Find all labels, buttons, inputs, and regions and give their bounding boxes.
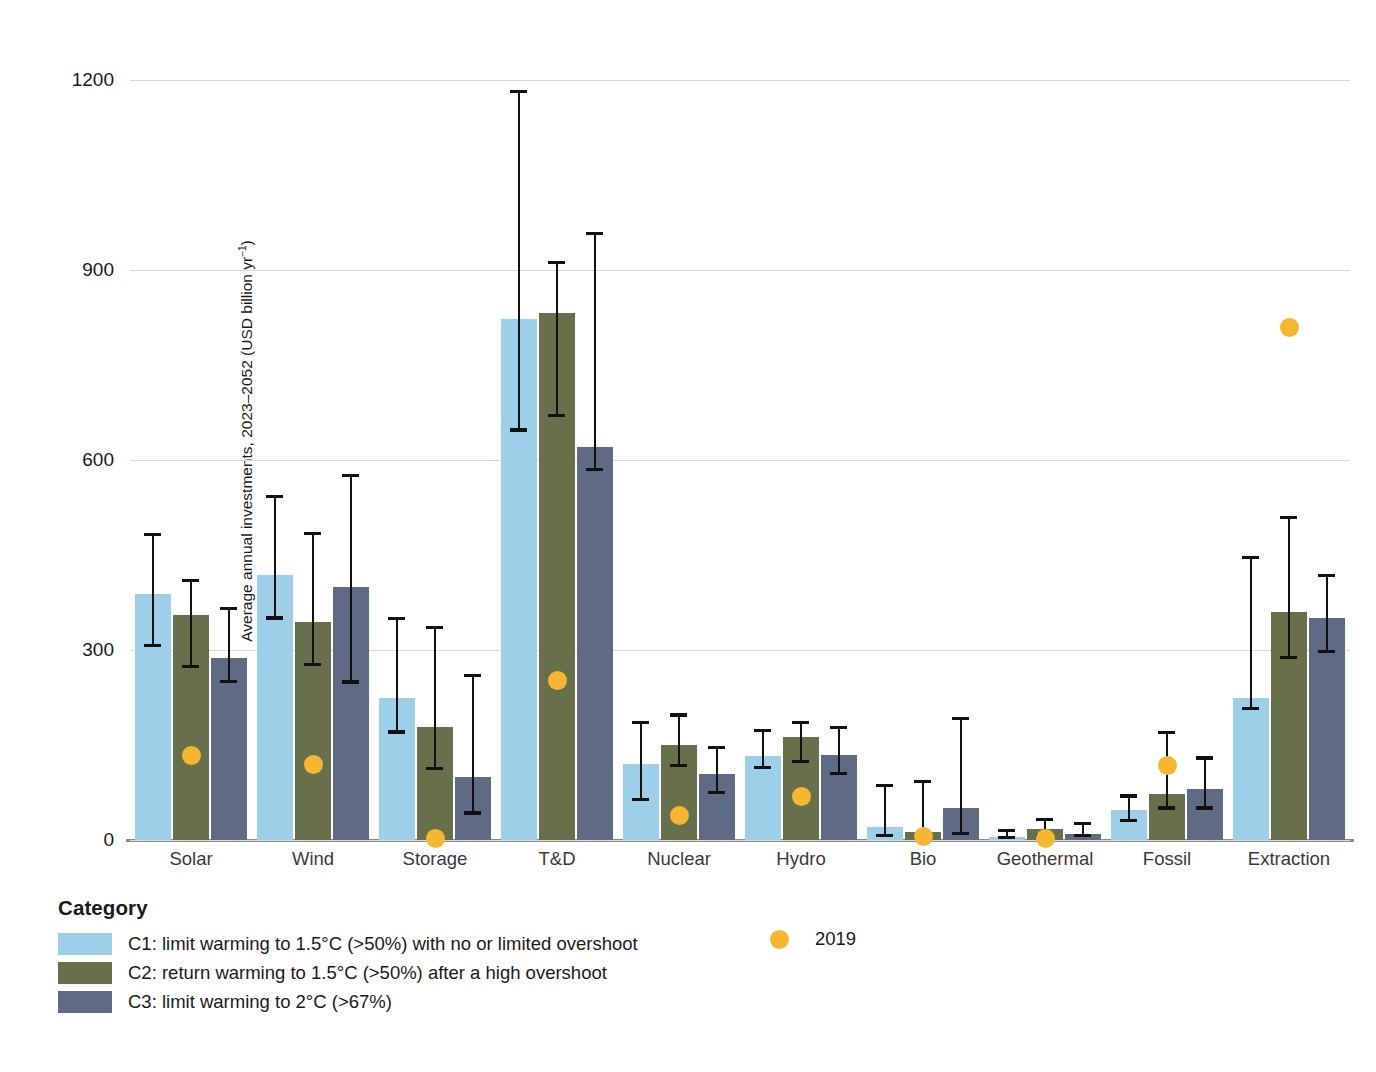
error-bar-cap (182, 665, 199, 668)
error-bar-cap (304, 532, 321, 535)
error-bar (884, 784, 887, 837)
year-2019-dot-icon (1036, 829, 1055, 848)
page-caption-crop (0, 1056, 1376, 1072)
error-bar-cap (1120, 794, 1137, 797)
error-bar-cap (952, 717, 969, 720)
error-bar-cap (510, 428, 527, 431)
error-bar-cap (1242, 556, 1259, 559)
error-bar-cap (266, 495, 283, 498)
error-bar-cap (708, 791, 725, 794)
chart-container: Average annual investments, 2023–2052 (U… (0, 0, 1376, 1072)
error-bar (228, 607, 231, 683)
bar-group (257, 42, 369, 840)
year-2019-dot-icon (548, 671, 567, 690)
error-bar-cap (510, 90, 527, 93)
legend-item-label: C3: limit warming to 2°C (>67%) (128, 991, 392, 1013)
legend-swatch (58, 933, 112, 955)
error-bar-cap (632, 798, 649, 801)
year-2019-dot-icon (1158, 756, 1177, 775)
error-bar-cap (220, 607, 237, 610)
error-bar-cap (792, 760, 809, 763)
error-bar-cap (1280, 656, 1297, 659)
legend-item-label: C1: limit warming to 1.5°C (>50%) with n… (128, 933, 638, 955)
legend-item[interactable]: C3: limit warming to 2°C (>67%) (58, 987, 1338, 1016)
error-bar (472, 674, 475, 815)
year-2019-dot-icon (792, 787, 811, 806)
error-bar-cap (182, 579, 199, 582)
x-axis-tick-label: Hydro (776, 848, 825, 870)
bar[interactable] (211, 658, 247, 840)
bar-group (379, 42, 491, 840)
error-bar (1082, 822, 1085, 837)
error-bar-cap (876, 834, 893, 837)
error-bar (838, 726, 841, 775)
error-bar-cap (342, 474, 359, 477)
error-bar-cap (1318, 574, 1335, 577)
year-2019-dot-icon (670, 806, 689, 825)
legend-item[interactable]: C1: limit warming to 1.5°C (>50%) with n… (58, 929, 1338, 958)
bar-group (1233, 42, 1345, 840)
error-bar-cap (426, 626, 443, 629)
error-bar-cap (830, 772, 847, 775)
error-bar-cap (304, 663, 321, 666)
x-axis-tick-label: Geothermal (997, 848, 1094, 870)
legend-point-label: 2019 (815, 928, 856, 950)
error-bar (518, 90, 521, 432)
error-bar (762, 729, 765, 769)
error-bar-cap (1196, 756, 1213, 759)
error-bar (350, 474, 353, 684)
bar[interactable] (577, 447, 613, 840)
error-bar-cap (1196, 806, 1213, 809)
legend-reference-point: 2019 (770, 928, 856, 950)
error-bar (960, 717, 963, 835)
error-bar-cap (388, 617, 405, 620)
error-bar (1326, 574, 1329, 653)
bar-group (135, 42, 247, 840)
error-bar (1128, 794, 1131, 822)
error-bar-cap (998, 829, 1015, 832)
error-bar-cap (220, 680, 237, 683)
error-bar-cap (876, 784, 893, 787)
error-bar (1288, 516, 1291, 660)
bar-group (989, 42, 1101, 840)
error-bar-cap (952, 832, 969, 835)
error-bar-cap (1158, 731, 1175, 734)
error-bar-cap (754, 766, 771, 769)
error-bar (716, 746, 719, 794)
bar[interactable] (1233, 698, 1269, 841)
error-bar-cap (1242, 707, 1259, 710)
x-axis-tick-label: Storage (403, 848, 468, 870)
error-bar (678, 713, 681, 767)
error-bar-cap (1074, 822, 1091, 825)
error-bar (640, 721, 643, 801)
x-axis-tick-label: Solar (169, 848, 212, 870)
y-axis-tick-label: 300 (24, 639, 114, 661)
error-bar (800, 721, 803, 763)
error-bar (1250, 556, 1253, 710)
error-bar-cap (1120, 819, 1137, 822)
error-bar (434, 626, 437, 770)
bar-group (1111, 42, 1223, 840)
plot-area: Average annual investments, 2023–2052 (U… (130, 42, 1350, 840)
x-axis-tick-label: Wind (292, 848, 334, 870)
y-axis-tick-label: 1200 (24, 69, 114, 91)
year-2019-dot-icon (304, 755, 323, 774)
x-axis-tick-label: Extraction (1248, 848, 1330, 870)
error-bar (274, 495, 277, 620)
error-bar-cap (464, 674, 481, 677)
error-bar-cap (144, 533, 161, 536)
legend-item[interactable]: C2: return warming to 1.5°C (>50%) after… (58, 958, 1338, 987)
error-bar-cap (1036, 818, 1053, 821)
bar-group (867, 42, 979, 840)
bar-group (745, 42, 857, 840)
error-bar-cap (586, 468, 603, 471)
error-bar (594, 232, 597, 471)
x-axis-tick-label: Fossil (1143, 848, 1191, 870)
error-bar (152, 533, 155, 647)
y-axis-tick-label: 900 (24, 259, 114, 281)
error-bar-cap (144, 644, 161, 647)
error-bar-cap (670, 764, 687, 767)
error-bar-cap (708, 746, 725, 749)
y-axis-tick-label: 600 (24, 449, 114, 471)
error-bar-cap (754, 729, 771, 732)
